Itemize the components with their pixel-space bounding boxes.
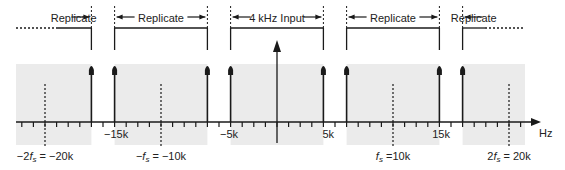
x-axis-arrow-icon	[531, 118, 541, 126]
arrow-head-icon	[233, 15, 239, 20]
y-axis-arrow-icon	[273, 40, 281, 52]
band-label: 4 kHz Input	[249, 12, 305, 24]
arrow-head-icon	[117, 15, 123, 20]
tick-label: 15k	[432, 128, 450, 140]
band-label: Replicate	[451, 12, 497, 24]
tick-label: −5k	[220, 128, 239, 140]
sample-rate-label: fs =10k	[376, 150, 411, 164]
sample-rate-label: 2fs = 20k	[487, 150, 531, 164]
arrow-head-icon	[199, 15, 205, 20]
band-label: Replicate	[370, 12, 416, 24]
axis-unit-label: Hz	[539, 127, 552, 139]
arrow-head-icon	[431, 15, 437, 20]
shaded-band	[16, 64, 91, 145]
shaded-band	[463, 64, 525, 145]
arrow-head-icon	[349, 15, 355, 20]
band-label: Replicate	[138, 12, 184, 24]
band-label: Replicate	[51, 12, 97, 24]
tick-label: −15k	[104, 128, 129, 140]
tick-label: 5k	[322, 128, 334, 140]
sample-rate-label: −2fs = −20k	[17, 150, 74, 164]
spectrum-diagram: ReplicateReplicate4 kHz InputReplicateRe…	[0, 0, 565, 170]
arrow-head-icon	[315, 15, 321, 20]
sample-rate-label: −fs = −10k	[136, 150, 187, 164]
